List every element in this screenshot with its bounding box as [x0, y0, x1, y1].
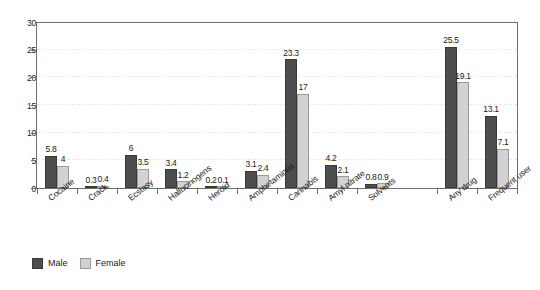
bar-male — [485, 116, 497, 188]
bar-value-label: 23.3 — [277, 49, 305, 58]
bar-value-label: 3.4 — [157, 159, 185, 168]
x-tick-mark — [517, 189, 518, 194]
bar-value-label: 19.1 — [449, 72, 477, 81]
y-tick-mark — [31, 133, 36, 134]
bar-value-label: 13.1 — [477, 105, 505, 114]
x-tick-mark — [277, 189, 278, 194]
bar-value-label: 4.2 — [317, 154, 345, 163]
legend-label: Male — [48, 259, 68, 268]
chart-legend: MaleFemale — [32, 258, 126, 269]
x-tick-mark — [77, 189, 78, 194]
x-tick-mark — [117, 189, 118, 194]
x-tick-mark — [37, 189, 38, 194]
legend-swatch-female-icon — [80, 258, 91, 269]
bar-value-label: 7.1 — [489, 138, 517, 147]
legend-label: Female — [96, 259, 126, 268]
bar-value-label: 6 — [117, 144, 145, 153]
bar-value-label: 4 — [49, 155, 77, 164]
legend-swatch-male-icon — [32, 258, 43, 269]
x-tick-mark — [157, 189, 158, 194]
y-tick-mark — [31, 105, 36, 106]
y-tick-mark — [31, 188, 36, 189]
y-tick-mark — [31, 77, 36, 78]
y-axis: 051015202530 — [0, 22, 36, 189]
bar-value-label: 25.5 — [437, 36, 465, 45]
legend-item-female: Female — [80, 258, 126, 269]
bar-male — [245, 171, 257, 188]
bar-female — [457, 82, 469, 188]
x-tick-mark — [317, 189, 318, 194]
bars-layer: 5.840.30.463.53.41.20.20.13.12.423.3174.… — [37, 22, 517, 188]
bar-chart: 051015202530 5.840.30.463.53.41.20.20.13… — [0, 0, 540, 290]
x-axis: CocaineCrackEcstasyHallucinogensHeroinAm… — [37, 189, 517, 259]
y-tick-label: 30 — [8, 19, 36, 28]
legend-item-male: Male — [32, 258, 68, 269]
x-tick-mark — [437, 189, 438, 194]
bar-value-label: 3.5 — [129, 158, 157, 167]
bar-male — [445, 47, 457, 188]
x-tick-mark — [197, 189, 198, 194]
y-tick-mark — [31, 50, 36, 51]
y-tick-mark — [31, 160, 36, 161]
bar-value-label: 17 — [289, 83, 317, 92]
bar-value-label: 2.4 — [249, 164, 277, 173]
x-tick-mark — [477, 189, 478, 194]
bar-value-label: 5.8 — [37, 145, 65, 154]
x-tick-mark — [357, 189, 358, 194]
x-tick-mark — [237, 189, 238, 194]
bar-female — [297, 94, 309, 188]
